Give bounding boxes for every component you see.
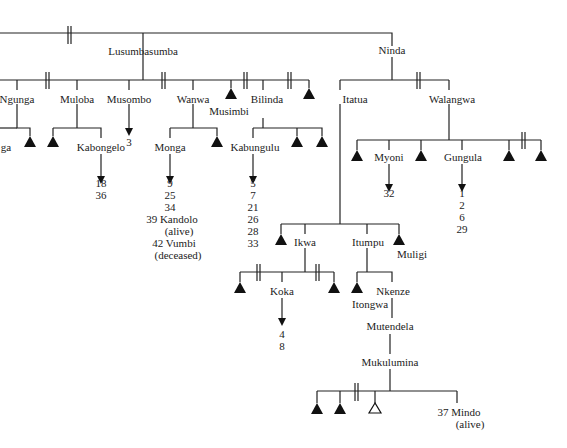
count-koka: 4 <box>279 328 285 340</box>
filled-triangle-icon <box>47 136 59 147</box>
count-koka: 8 <box>279 340 285 352</box>
filled-triangle-icon <box>393 234 405 245</box>
person-ngunga: Ngunga <box>0 93 35 105</box>
person-labels: Lusumbasumba Ninda Ngunga Muloba Musombo… <box>0 44 485 431</box>
person-itongwa: Itongwa <box>352 298 388 310</box>
person-itumpu: Itumpu <box>352 236 384 248</box>
arrow-icon <box>125 128 133 136</box>
annotation-kandolo: 39 Kandolo <box>146 213 198 225</box>
person-muligi: Muligi <box>397 248 427 260</box>
filled-triangle-icon <box>24 136 36 147</box>
filled-triangle-icon <box>234 282 246 293</box>
person-wanwa: Wanwa <box>177 93 210 105</box>
arrow-icon <box>278 318 286 326</box>
count-kabungulu: 7 <box>250 189 256 201</box>
count-myoni: 32 <box>384 187 395 199</box>
filled-triangle-icon <box>316 136 328 147</box>
filled-triangle-icon <box>535 150 547 161</box>
person-lusumbasumba: Lusumbasumba <box>108 45 178 57</box>
filled-triangle-icon <box>303 88 315 99</box>
person-gungula: Gungula <box>444 151 482 163</box>
filled-triangle-icon <box>351 282 363 293</box>
person-mukulumina: Mukulumina <box>362 356 419 368</box>
filled-triangle-icon <box>503 150 515 161</box>
filled-triangle-icon <box>311 403 323 414</box>
person-kabungulu: Kabungulu <box>231 141 280 153</box>
male-symbols <box>24 88 547 414</box>
annotation-vumbi: 42 Vumbi <box>152 237 195 249</box>
filled-triangle-icon <box>351 150 363 161</box>
count-gungula: 29 <box>457 223 469 235</box>
count-kabungulu: 28 <box>248 225 260 237</box>
count-gungula: 6 <box>459 211 465 223</box>
person-nkenze: Nkenze <box>376 285 410 297</box>
filled-triangle-icon <box>415 150 427 161</box>
count-kabongelo: 36 <box>96 189 108 201</box>
person-walangwa: Walangwa <box>429 93 475 105</box>
person-mindo-status: (alive) <box>456 418 485 431</box>
count-musombo: 3 <box>126 136 132 148</box>
filled-triangle-icon <box>328 282 340 293</box>
count-kabongelo: 18 <box>96 177 108 189</box>
count-kabungulu: 5 <box>250 177 256 189</box>
count-kabungulu: 26 <box>248 213 260 225</box>
filled-triangle-icon <box>275 234 287 245</box>
person-myoni: Myoni <box>374 151 403 163</box>
person-nga: ga <box>1 141 12 153</box>
person-koka: Koka <box>270 285 294 297</box>
person-mutendela: Mutendela <box>366 320 413 332</box>
open-triangle-icon <box>369 403 381 413</box>
count-monga: 9 <box>167 177 173 189</box>
filled-triangle-icon <box>225 88 237 99</box>
count-gungula: 2 <box>459 199 465 211</box>
person-bilinda: Bilinda <box>251 93 284 105</box>
count-monga: 25 <box>165 189 177 201</box>
person-musimbi: Musimbi <box>209 105 249 117</box>
filled-triangle-icon <box>211 136 223 147</box>
person-musombo: Musombo <box>107 93 152 105</box>
kinship-diagram: Lusumbasumba Ninda Ngunga Muloba Musombo… <box>0 0 567 448</box>
count-kabungulu: 21 <box>248 201 259 213</box>
count-monga: 34 <box>165 201 177 213</box>
filled-triangle-icon <box>334 403 346 414</box>
person-monga: Monga <box>154 141 185 153</box>
monga-annotations: 39 Kandolo (alive) 42 Vumbi (deceased) <box>146 213 202 262</box>
person-ninda: Ninda <box>379 44 406 56</box>
person-ikwa: Ikwa <box>294 236 316 248</box>
person-itatua: Itatua <box>342 93 367 105</box>
person-kabongelo: Kabongelo <box>77 141 126 153</box>
count-gungula: 1 <box>459 187 465 199</box>
person-mindo: 37 Mindo <box>437 406 481 418</box>
person-muloba: Muloba <box>60 93 94 105</box>
filled-triangle-icon <box>291 136 303 147</box>
annotation-vumbi-status: (deceased) <box>154 249 201 262</box>
count-kabungulu: 33 <box>248 237 260 249</box>
